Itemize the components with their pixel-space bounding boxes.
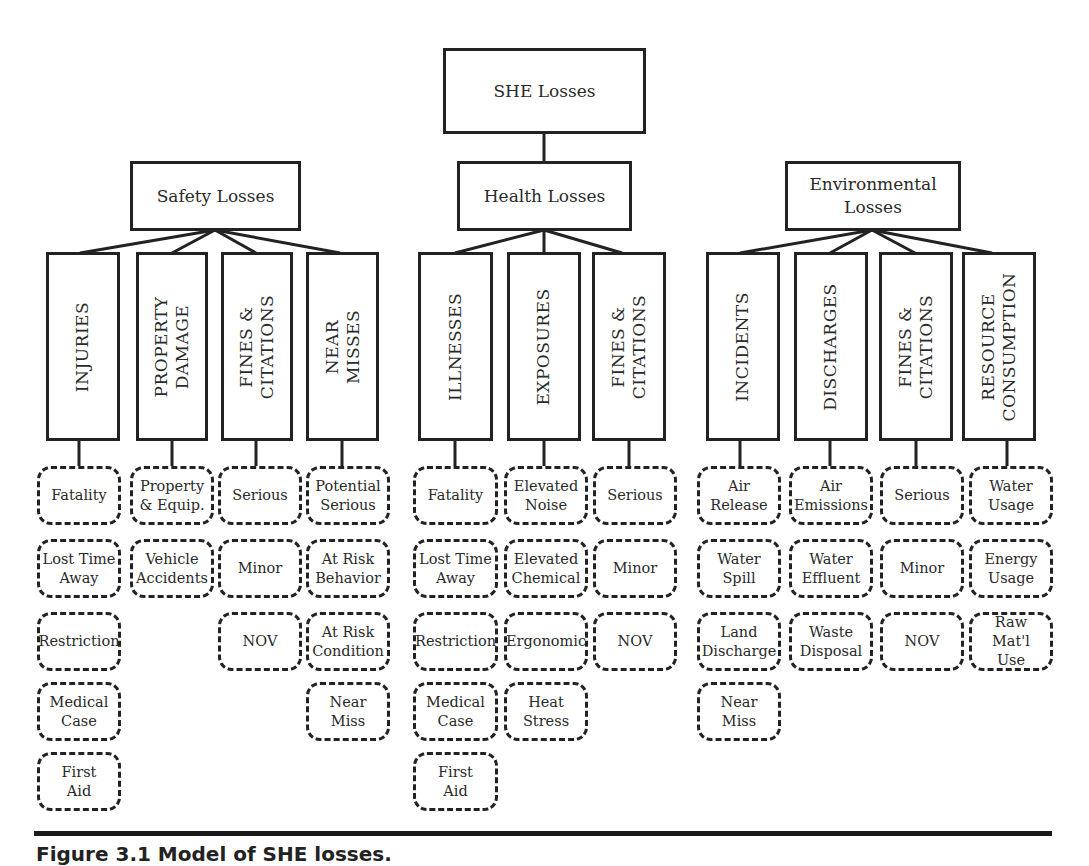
category-health-fines-citations: FINES & CITATIONS	[592, 252, 666, 441]
item-minor: Minor	[218, 539, 302, 598]
item-elevated-noise: Elevated Noise	[504, 466, 588, 525]
category-label: INCIDENTS	[732, 292, 753, 402]
category-env-fines-citations: FINES & CITATIONS	[879, 252, 953, 441]
item-first-aid: First Aid	[37, 752, 121, 811]
category-exposures: EXPOSURES	[507, 252, 581, 441]
item-medical-case: Medical Case	[413, 682, 498, 741]
item-air-release: Air Release	[697, 466, 781, 525]
item-minor: Minor	[880, 539, 964, 598]
item-fatality: Fatality	[37, 466, 121, 525]
category-label: RESOURCE CONSUMPTION	[978, 272, 1021, 421]
item-restriction: Restriction	[37, 612, 121, 671]
item-nov: NOV	[593, 612, 677, 671]
item-water-spill: Water Spill	[697, 539, 781, 598]
item-water-effluent: Water Effluent	[789, 539, 873, 598]
group-node-health-losses: Health Losses	[457, 161, 632, 231]
group-label: Safety Losses	[157, 185, 275, 208]
item-ergonomic: Ergonomic	[504, 612, 588, 671]
category-illnesses: ILLNESSES	[418, 252, 493, 441]
item-land-discharge: Land Discharge	[697, 612, 781, 671]
category-property-damage: PROPERTY DAMAGE	[136, 252, 208, 441]
category-label: NEAR MISSES	[321, 309, 364, 383]
item-nov: NOV	[218, 612, 302, 671]
category-label: FINES & CITATIONS	[236, 294, 279, 399]
category-label: ILLNESSES	[445, 292, 466, 400]
category-near-misses: NEAR MISSES	[306, 252, 379, 441]
item-raw-matl-use: Raw Mat'l Use	[969, 612, 1053, 671]
item-first-aid: First Aid	[413, 752, 498, 811]
item-energy-usage: Energy Usage	[969, 539, 1053, 598]
item-potential-serious: Potential Serious	[306, 466, 390, 525]
item-at-risk-behavior: At Risk Behavior	[306, 539, 390, 598]
item-minor: Minor	[593, 539, 677, 598]
item-elevated-chemical: Elevated Chemical	[504, 539, 588, 598]
caption-rule	[34, 831, 1052, 836]
root-node-she-losses: SHE Losses	[443, 48, 646, 134]
category-label: DISCHARGES	[820, 283, 841, 411]
category-discharges: DISCHARGES	[794, 252, 868, 441]
item-air-emissions: Air Emissions	[789, 466, 873, 525]
item-nov: NOV	[880, 612, 964, 671]
category-label: INJURIES	[72, 301, 93, 391]
category-label: FINES & CITATIONS	[608, 294, 651, 399]
item-fatality: Fatality	[413, 466, 498, 525]
item-near-miss: Near Miss	[306, 682, 390, 741]
item-serious: Serious	[593, 466, 677, 525]
item-lost-time-away: Lost Time Away	[37, 539, 121, 598]
group-node-safety-losses: Safety Losses	[130, 161, 301, 231]
category-safety-fines-citations: FINES & CITATIONS	[221, 252, 293, 441]
item-heat-stress: Heat Stress	[504, 682, 588, 741]
group-label: Health Losses	[484, 185, 605, 208]
item-property-equip: Property & Equip.	[130, 466, 214, 525]
category-resource-consumption: RESOURCE CONSUMPTION	[962, 252, 1036, 441]
category-label: PROPERTY DAMAGE	[151, 296, 194, 397]
group-node-environmental-losses: Environmental Losses	[785, 161, 961, 231]
item-waste-disposal: Waste Disposal	[789, 612, 873, 671]
item-lost-time-away: Lost Time Away	[413, 539, 498, 598]
category-incidents: INCIDENTS	[706, 252, 780, 441]
item-water-usage: Water Usage	[969, 466, 1053, 525]
category-label: EXPOSURES	[533, 288, 554, 405]
item-medical-case: Medical Case	[37, 682, 121, 741]
item-restriction: Restriction	[413, 612, 498, 671]
category-label: FINES & CITATIONS	[895, 294, 938, 399]
root-label: SHE Losses	[493, 80, 595, 103]
item-near-miss: Near Miss	[697, 682, 781, 741]
figure-caption: Figure 3.1 Model of SHE losses.	[36, 842, 392, 866]
category-injuries: INJURIES	[46, 252, 120, 441]
item-at-risk-condition: At Risk Condition	[306, 612, 390, 671]
group-label: Environmental Losses	[809, 173, 936, 219]
item-serious: Serious	[218, 466, 302, 525]
item-vehicle-accidents: Vehicle Accidents	[130, 539, 214, 598]
item-serious: Serious	[880, 466, 964, 525]
